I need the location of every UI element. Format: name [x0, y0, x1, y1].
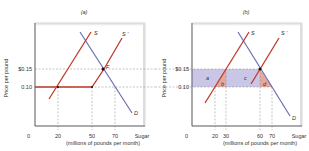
- xlabel-units-b: (millions of pounds per month): [223, 140, 297, 146]
- label-sprime-a: S ': [122, 31, 129, 37]
- ylabel-b: Price per pound: [161, 59, 167, 98]
- xtick-a-50: 50: [89, 133, 95, 139]
- xtick-b-20: 20: [212, 133, 218, 139]
- ytick-015-b: $0.15: [175, 66, 189, 72]
- xtick-b-70: 70: [269, 133, 275, 139]
- label-s-b: S: [251, 30, 255, 36]
- panel-a-frame: [35, 23, 145, 126]
- origin-a: 0: [27, 133, 30, 139]
- label-area-c: c: [244, 75, 247, 81]
- xtick-a-20: 20: [55, 133, 61, 139]
- label-d-b: D: [292, 115, 296, 121]
- label-area-b: b: [221, 81, 224, 87]
- xlabel-word-a: Sugar: [135, 133, 150, 139]
- xlabel-units-a: (millions of pounds per month): [66, 140, 140, 146]
- label-area-a: a: [206, 75, 209, 81]
- ytick-015-a: $0.15: [18, 66, 32, 72]
- panel-a-title: (a): [81, 9, 88, 15]
- ytick-010-b: 0.10: [178, 84, 189, 90]
- point-f: [102, 68, 105, 71]
- label-sprime-b: S ': [281, 30, 288, 36]
- panel-a: (a) S S ' F D $0.15 0.10 0 20 50 70: [3, 9, 155, 146]
- ylabel-a: Price per pound: [3, 59, 9, 98]
- chart-figure: (a) S S ' F D $0.15 0.10 0 20 50 70: [0, 0, 309, 151]
- panel-b-title: (b): [243, 9, 250, 15]
- xtick-b-60: 60: [257, 133, 263, 139]
- xtick-a-70: 70: [112, 133, 118, 139]
- origin-b: 0: [185, 133, 188, 139]
- xtick-b-30: 30: [223, 133, 229, 139]
- label-d-a: D: [134, 110, 138, 116]
- panel-b: (b) S S ' D a b c d $0.15: [155, 9, 307, 146]
- ytick-010-a: 0.10: [21, 84, 32, 90]
- label-s-a: S: [94, 30, 98, 36]
- xlabel-word-b: Sugar: [292, 133, 307, 139]
